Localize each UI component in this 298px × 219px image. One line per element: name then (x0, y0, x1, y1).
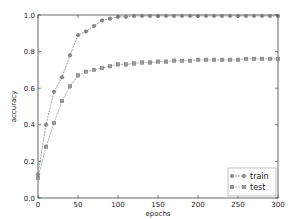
series-line-test (38, 59, 278, 178)
data-point-test (260, 57, 264, 61)
x-tick-label: 0 (36, 201, 40, 209)
data-point-train (108, 17, 112, 21)
legend-marker (242, 185, 246, 189)
data-point-train (244, 14, 248, 18)
data-point-train (188, 14, 192, 18)
x-tick-label: 250 (231, 201, 244, 209)
legend-label: train (250, 172, 269, 181)
y-tick-label: 1.0 (24, 12, 35, 20)
data-point-test (52, 121, 56, 125)
data-point-test (188, 59, 192, 63)
data-point-train (164, 14, 168, 18)
data-point-test (212, 58, 216, 62)
data-point-test (196, 58, 200, 62)
legend: traintest (228, 168, 276, 196)
data-point-train (140, 14, 144, 18)
data-point-test (100, 66, 104, 70)
data-point-train (132, 14, 136, 18)
data-point-test (220, 58, 224, 62)
x-tick-label: 200 (191, 201, 204, 209)
data-point-test (60, 99, 64, 103)
data-point-test (140, 61, 144, 65)
data-point-train (252, 14, 256, 18)
y-tick-label: 0.8 (24, 48, 35, 56)
data-point-train (228, 14, 232, 18)
data-point-train (52, 90, 56, 94)
series-train (36, 14, 280, 176)
data-point-train (148, 14, 152, 18)
data-point-train (84, 30, 88, 34)
data-point-test (252, 57, 256, 61)
data-point-train (220, 14, 224, 18)
data-point-train (180, 14, 184, 18)
legend-marker (230, 185, 234, 189)
data-point-train (124, 15, 128, 19)
data-point-test (68, 85, 72, 89)
data-point-test (44, 145, 48, 149)
data-point-test (180, 59, 184, 63)
data-point-test (228, 58, 232, 62)
data-point-test (204, 58, 208, 62)
data-point-test (164, 60, 168, 64)
data-point-train (212, 14, 216, 18)
data-point-test (244, 57, 248, 61)
data-point-train (172, 14, 176, 18)
legend-marker (242, 174, 246, 178)
legend-label: test (250, 183, 265, 192)
y-tick-label: 0.6 (24, 85, 36, 93)
data-point-test (156, 60, 160, 64)
data-point-test (276, 57, 280, 61)
series-line-train (38, 16, 278, 174)
data-point-test (116, 63, 120, 67)
data-point-test (36, 176, 40, 180)
data-point-train (204, 14, 208, 18)
data-point-test (268, 57, 272, 61)
data-point-test (92, 68, 96, 72)
data-point-test (76, 74, 80, 78)
x-tick-label: 150 (151, 201, 164, 209)
data-point-test (124, 63, 128, 67)
x-axis-label: epochs (146, 210, 171, 218)
data-point-test (108, 64, 112, 68)
x-tick-label: 50 (74, 201, 83, 209)
data-point-test (148, 61, 152, 65)
data-point-train (68, 53, 72, 57)
x-tick-label: 100 (111, 201, 124, 209)
data-point-test (84, 70, 88, 74)
accuracy-chart: 050100150200250300 0.00.20.40.60.81.0 ep… (0, 0, 298, 219)
x-tick-label: 300 (271, 201, 284, 209)
y-axis-label: accuracy (10, 91, 18, 123)
legend-marker (230, 174, 234, 178)
data-point-train (268, 14, 272, 18)
data-point-train (60, 75, 64, 79)
data-point-train (44, 123, 48, 127)
y-tick-label: 0.2 (24, 158, 35, 166)
data-point-test (132, 62, 136, 66)
y-tick-label: 0.4 (24, 121, 36, 129)
series-test (36, 57, 280, 180)
y-tick-label: 0.0 (24, 195, 35, 203)
data-point-train (260, 14, 264, 18)
data-point-train (76, 33, 80, 37)
data-point-test (236, 58, 240, 62)
data-point-test (172, 59, 176, 63)
series-layer (36, 14, 280, 180)
data-point-train (100, 19, 104, 23)
data-point-train (92, 24, 96, 28)
